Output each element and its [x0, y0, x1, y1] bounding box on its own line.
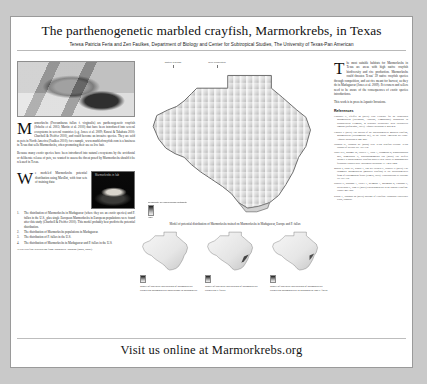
methods-row: We modeled Marmorkrebs potential distrib…	[17, 171, 135, 209]
dropcap-w: W	[17, 171, 35, 185]
conclusion-paragraph: The most suitable habitats for Marmorkre…	[334, 61, 408, 97]
small-map-caption: Model of potential distribution of Marmo…	[205, 285, 263, 293]
callout-label: Native crayfish	[165, 61, 181, 64]
reference-item: Jones JPG, Rasamy JR, Harvey A, Toon A, …	[334, 151, 408, 165]
methods-footnote: Texas crayfish distribution from Johnson…	[17, 248, 135, 252]
small-maps-row: Model of potential distribution of Marmo…	[140, 230, 330, 293]
legend-gradient-bar	[270, 275, 276, 283]
reference-item: Faulkes Z (2010) The spread of the parth…	[334, 131, 408, 142]
center-column: Native crayfish Rice production	[140, 61, 330, 293]
references-heading: References	[334, 109, 408, 113]
reference-item: Scholtz G, Braband A, Tolley L, Reimann …	[334, 182, 408, 193]
methods-text: We modeled Marmorkrebs potential distrib…	[17, 171, 87, 185]
list-number: 4.	[17, 241, 22, 245]
legend-high-label: High	[148, 216, 187, 218]
crayfish-photo	[17, 61, 135, 117]
reference-item: Chucholl C, Pfeiffer M (2010) First evid…	[334, 115, 408, 129]
list-number: 3.	[17, 235, 22, 239]
header-divider	[17, 50, 406, 51]
right-column: The most suitable habitats for Marmorkre…	[334, 61, 408, 203]
reference-item: Martin P, Dorn NJ, Kawai T, van der Heid…	[334, 167, 408, 181]
poster-columns: Marmorkrebs (Procambarus fallax f. virgi…	[11, 61, 412, 367]
methods-section: We modeled Marmorkrebs potential distrib…	[17, 171, 135, 252]
list-item: 1. The distribution of Marmorkrebs in Ma…	[17, 211, 135, 229]
list-item: 4. The distribution of Marmorkrebs in Ma…	[17, 241, 135, 245]
page-title: The parthenogenetic marbled crayfish, Ma…	[11, 23, 412, 39]
list-text: The distribution of P. fallax in the U.S…	[24, 235, 71, 239]
main-texas-map: Probability of Marmorkrebs suitability H…	[144, 70, 326, 220]
website-banner-text: Visit us online at Marmorkrebs.org	[121, 343, 303, 358]
dropcap-m: M	[17, 121, 34, 135]
intro-text: armorkrebs (Procambarus fallax f. virgin…	[17, 121, 135, 147]
list-number: 1.	[17, 211, 22, 229]
list-number: 2.	[17, 230, 22, 234]
reference-item: Johnson JE, Johnson RL (2008) New Texas …	[334, 143, 408, 150]
small-map-cell: Model of potential distribution of Marmo…	[140, 230, 198, 293]
list-item: 3. The distribution of P. fallax in the …	[17, 235, 135, 239]
poster-canvas: The parthenogenetic marbled crayfish, Ma…	[10, 16, 413, 368]
legend-gradient-bar	[205, 275, 211, 283]
lab-photo: Marmorkrebs in lab	[91, 171, 135, 209]
methods-intro: We modeled Marmorkrebs potential distrib…	[17, 171, 87, 184]
callout-native-crayfish: Native crayfish	[158, 61, 188, 68]
author-line: Teresa Patricia Feria and Zen Faulkes, D…	[11, 42, 412, 47]
map-legend: Probability of Marmorkrebs suitability H…	[148, 201, 187, 218]
legend-gradient-bar	[140, 275, 146, 283]
intro-paragraph-2: Because many exotic species have been in…	[17, 151, 135, 164]
footer-banner: Visit us online at Marmorkrebs.org	[17, 338, 406, 361]
list-text: The distribution of Marmorkrebs in Madag…	[24, 241, 112, 245]
intro-paragraph: Marmorkrebs (Procambarus fallax f. virgi…	[17, 121, 135, 147]
small-map-legend	[140, 275, 198, 283]
methods-list: 1. The distribution of Marmorkrebs in Ma…	[17, 211, 135, 245]
conclusion-paragraph-2: This work is in press in Aquatic Invasio…	[334, 100, 408, 104]
texas-map-madagascar	[140, 230, 198, 274]
callout-label: Rice production	[208, 61, 225, 64]
callout-leader-line	[173, 65, 174, 68]
list-text: The distribution of Marmorkrebs in Madag…	[24, 211, 135, 229]
legend-title: Probability of Marmorkrebs suitability	[148, 201, 187, 204]
dropcap-t: T	[334, 61, 346, 75]
left-column: Marmorkrebs (Procambarus fallax f. virgi…	[17, 61, 135, 252]
texas-map-pfallax	[205, 230, 263, 274]
texas-map-combined	[270, 230, 328, 274]
callout-leader-line	[217, 65, 218, 68]
callout-rice-production: Rice production	[202, 61, 232, 68]
list-item: 2. The distribution of Marmorkrebs popul…	[17, 230, 135, 234]
main-map-caption: Model of potential distribution of Marmo…	[140, 222, 330, 226]
small-map-legend	[270, 275, 328, 283]
small-map-cell: Model of potential distribution of Marmo…	[270, 230, 328, 293]
lab-photo-caption: Marmorkrebs in lab	[92, 172, 134, 177]
methods-intro-text: e modeled Marmorkrebs potential distribu…	[35, 171, 87, 184]
small-map-caption: Model of potential distribution of Marmo…	[270, 285, 328, 293]
small-map-caption: Model of potential distribution of Marmo…	[140, 285, 198, 293]
small-map-legend	[205, 275, 263, 283]
small-map-cell: Model of potential distribution of Marmo…	[205, 230, 263, 293]
list-text: The distribution of Marmorkrebs populati…	[24, 230, 98, 234]
reference-item: Kawai T, Takahata M (2010) Biology of Cr…	[334, 195, 408, 202]
legend-gradient-bar	[148, 205, 154, 216]
references-list: Chucholl C, Pfeiffer M (2010) First evid…	[334, 115, 408, 202]
map-callouts: Native crayfish Rice production	[140, 61, 330, 70]
